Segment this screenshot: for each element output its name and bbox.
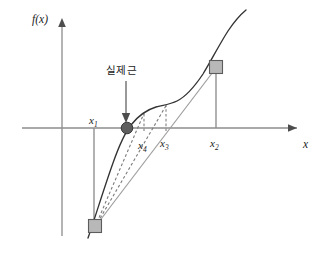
y-axis-label: f(x)	[32, 14, 48, 26]
annotation-arrow-head	[122, 113, 130, 123]
point-label-x1: x1	[89, 115, 98, 129]
x-axis-arrowhead	[288, 124, 297, 132]
actual-root-dot[interactable]	[121, 122, 133, 134]
secant-lines-group	[95, 64, 219, 227]
point-label-x4: x4	[138, 140, 147, 154]
figure-root: f(x) x 실제근 x1 x2 x3 x4	[0, 0, 326, 256]
secant-line-x1-x3	[95, 104, 167, 227]
diagram-canvas	[0, 0, 326, 256]
function-curve	[88, 10, 246, 238]
point-label-x2: x2	[210, 138, 219, 152]
secant-line-x1-x2	[95, 64, 219, 227]
x-axis-label: x	[303, 139, 308, 151]
lower-left-square-marker[interactable]	[89, 220, 102, 233]
annotation-arrow-group	[122, 81, 130, 123]
axis-group	[22, 18, 297, 236]
upper-right-square-marker[interactable]	[210, 61, 223, 74]
y-axis-arrowhead	[58, 18, 66, 27]
annotation-label-actual-root: 실제근	[106, 65, 137, 76]
point-label-x3: x3	[160, 138, 169, 152]
